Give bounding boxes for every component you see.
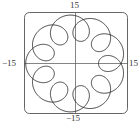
plot-canvas xyxy=(0,0,139,124)
plot-frame xyxy=(25,13,128,114)
